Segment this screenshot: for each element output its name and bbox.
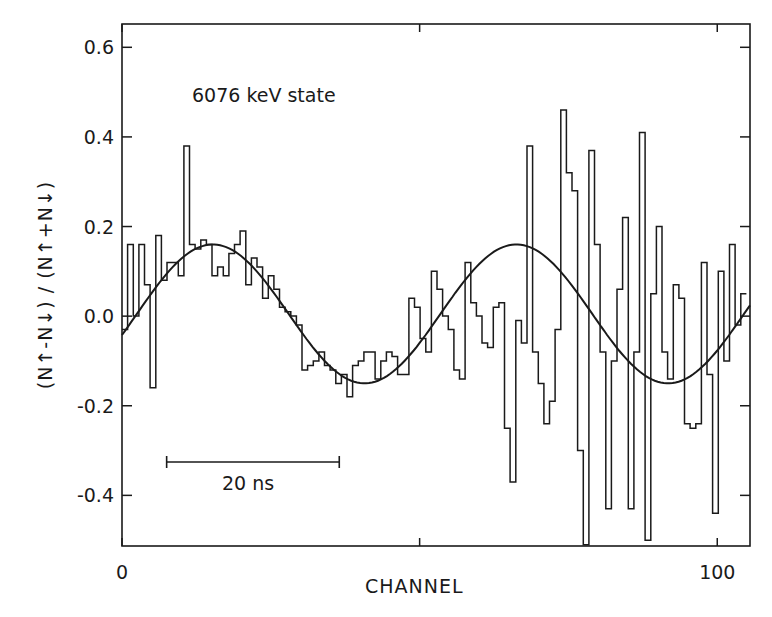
x-axis-title: CHANNEL <box>365 575 464 597</box>
y-tick-label: -0.2 <box>77 395 114 417</box>
y-tick-label: -0.4 <box>77 484 114 506</box>
x-tick-label: 100 <box>699 561 735 583</box>
x-tick-label: 0 <box>116 561 128 583</box>
y-axis-title: (N↑-N↓) / (N↑+N↓) <box>34 181 56 389</box>
histogram-series <box>122 110 746 545</box>
time-scale-bar: 20 ns <box>167 456 340 494</box>
y-axis-tick-labels: 0.60.40.20.0-0.2-0.4 <box>77 36 114 506</box>
scale-bar-label: 20 ns <box>222 472 274 494</box>
y-tick-label: 0.4 <box>84 126 114 148</box>
chart-annotation: 6076 keV state <box>192 84 336 106</box>
y-tick-label: 0.2 <box>84 216 114 238</box>
y-tick-label: 0.6 <box>84 36 114 58</box>
y-tick-label: 0.0 <box>84 305 114 327</box>
chart: 0.60.40.20.0-0.2-0.4 0100 6076 keV state… <box>0 0 772 617</box>
